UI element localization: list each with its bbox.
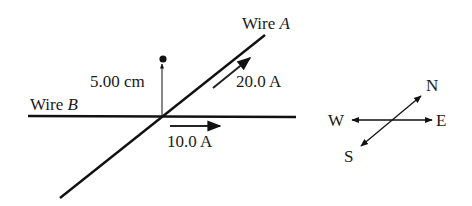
distance-label: 5.00 cm <box>90 72 145 91</box>
current-a-label: 20.0 A <box>236 72 282 91</box>
compass-south-north-arrow <box>361 96 421 146</box>
wire-a-label: Wire A <box>242 14 291 33</box>
compass-south-label: S <box>344 147 353 166</box>
wire-b-label: Wire B <box>30 95 79 114</box>
field-point-dot <box>159 55 166 62</box>
compass-rose: N E W S <box>328 76 446 166</box>
compass-west-label: W <box>328 111 345 130</box>
current-b-label: 10.0 A <box>167 132 213 151</box>
diagram-canvas: Wire A Wire B 5.00 cm 20.0 A 10.0 A N E … <box>0 0 472 206</box>
compass-east-label: E <box>436 111 446 130</box>
compass-north-label: N <box>426 76 438 95</box>
